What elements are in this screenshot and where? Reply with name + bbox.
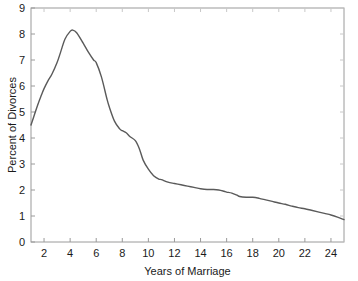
x-tick-label: 12 xyxy=(168,248,180,259)
x-axis-title: Years of Marriage xyxy=(144,266,230,277)
x-tick-label: 2 xyxy=(41,248,47,259)
y-axis-title: Percent of Divorces xyxy=(7,77,18,173)
y-tick-label: 5 xyxy=(19,107,25,118)
y-tick-label: 1 xyxy=(19,211,25,222)
y-tick-label: 2 xyxy=(19,185,25,196)
x-tick-label: 20 xyxy=(273,248,285,259)
y-tick-label: 4 xyxy=(19,133,25,144)
x-tick-label: 14 xyxy=(194,248,206,259)
x-tick-label: 6 xyxy=(93,248,99,259)
x-tick-label: 8 xyxy=(119,248,125,259)
y-tick-label: 0 xyxy=(19,237,25,248)
y-tick-label: 9 xyxy=(19,3,25,14)
x-tick-label: 16 xyxy=(221,248,233,259)
y-tick-label: 8 xyxy=(19,29,25,40)
x-tick-label: 10 xyxy=(142,248,154,259)
plot-canvas xyxy=(0,0,358,281)
y-tick-label: 6 xyxy=(19,81,25,92)
y-tick-label: 3 xyxy=(19,159,25,170)
x-tick-label: 22 xyxy=(299,248,311,259)
y-tick-label: 7 xyxy=(19,55,25,66)
divorce-rate-chart-figure: 24681012141618202224 0123456789 Years of… xyxy=(0,0,358,281)
x-tick-label: 24 xyxy=(325,248,337,259)
x-tick-label: 4 xyxy=(67,248,73,259)
x-tick-label: 18 xyxy=(247,248,259,259)
